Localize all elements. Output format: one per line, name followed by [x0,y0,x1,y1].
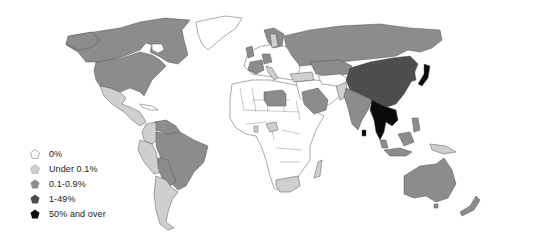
region-ghana [254,126,258,132]
legend-label: Under 0.1% [49,164,98,174]
region-russia [284,24,442,66]
region-madagascar [314,160,322,178]
pentagon-icon [30,179,40,189]
legend-item-1-to-49pct: 1-49% [30,191,106,206]
region-malaysia [380,140,388,148]
pentagon-icon [30,209,40,219]
region-mexico [100,86,146,126]
region-cuba [140,104,158,110]
region-southeast-asia [370,100,398,140]
legend-label: 0% [49,149,62,159]
legend-item-0pct: 0% [30,146,106,161]
region-tasmania [434,204,438,208]
legend-item-under-0-1pct: Under 0.1% [30,161,106,176]
region-borneo [398,132,414,146]
region-venezuela [154,120,180,134]
pentagon-icon [30,164,40,174]
pentagon-icon [30,149,40,159]
legend-item-0-1-to-0-9pct: 0.1-0.9% [30,176,106,191]
region-libya [264,90,286,106]
region-kazakhstan [310,60,352,76]
region-australia [404,158,456,202]
region-japan [418,64,430,86]
legend-item-50pct-and-over: 50% and over [30,206,106,221]
region-greenland [196,16,242,50]
legend-label: 50% and over [49,209,106,219]
legend-label: 0.1-0.9% [49,179,86,189]
region-indonesia [384,148,412,156]
region-new-zealand [460,196,480,216]
region-germany [262,54,272,64]
region-papua [430,144,456,154]
legend-label: 1-49% [49,194,76,204]
region-philippines [412,118,420,132]
pentagon-icon [30,194,40,204]
region-sri-lanka [362,130,366,136]
map-legend: 0% Under 0.1% 0.1-0.9% 1-49% 50% and ove… [30,146,106,221]
